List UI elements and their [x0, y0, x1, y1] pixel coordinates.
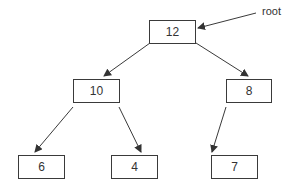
- node-value: 6: [38, 160, 45, 174]
- edge-arrow-n8-to-n7: [212, 107, 226, 152]
- edge-arrow-n12-to-n10: [104, 43, 150, 76]
- edge-arrow-root-label-to-n12: [198, 13, 256, 28]
- node-value: 12: [166, 25, 179, 39]
- tree-node-4: 4: [111, 155, 158, 179]
- tree-node-8: 8: [226, 79, 272, 103]
- tree-node-6: 6: [18, 155, 65, 179]
- tree-node-12: 12: [149, 20, 196, 44]
- edge-arrow-n12-to-n8: [196, 43, 248, 76]
- edge-arrow-n10-to-n4: [119, 107, 141, 152]
- node-value: 7: [231, 160, 238, 174]
- edges-layer: [35, 13, 256, 152]
- root-label: root: [262, 5, 281, 17]
- edge-arrow-n10-to-n6: [35, 107, 73, 152]
- tree-node-7: 7: [211, 155, 258, 179]
- node-value: 4: [131, 160, 138, 174]
- tree-node-10: 10: [73, 79, 120, 103]
- node-value: 10: [90, 84, 103, 98]
- node-value: 8: [246, 84, 253, 98]
